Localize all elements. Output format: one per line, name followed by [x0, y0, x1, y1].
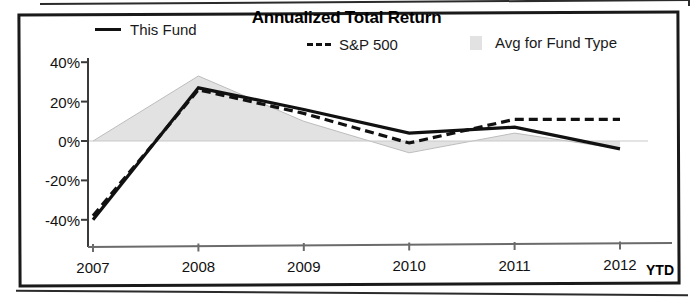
x-tick-label: 2010	[393, 257, 426, 274]
plot-area	[0, 0, 693, 298]
x-tick-label: 2007	[76, 259, 109, 276]
x-tick-label: 2009	[287, 258, 320, 275]
x-tick-label: 2011	[498, 257, 530, 274]
chart-screenshot: Annualized Total Return This Fund S&P 50…	[0, 0, 693, 298]
x-tick-label: 2008	[182, 258, 215, 275]
x-tick-label: 2012	[603, 256, 636, 273]
ytd-annotation: YTD	[646, 262, 674, 278]
